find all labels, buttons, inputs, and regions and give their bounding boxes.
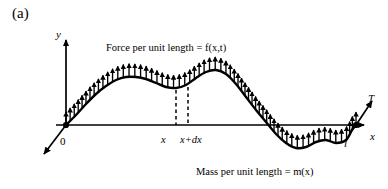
tension-vectors (44, 101, 372, 154)
panel-label: (a) (12, 6, 29, 21)
origin-label: 0 (60, 136, 66, 147)
string-deflection-curve (66, 70, 356, 148)
x-plus-dx-tick-label: x+dx (180, 135, 202, 146)
string-length-label: l (344, 138, 347, 149)
right-support-node (353, 122, 359, 128)
tension-label: T (368, 93, 374, 104)
x-tick-label: x (161, 135, 166, 146)
y-axis-label: y (56, 29, 61, 40)
right-tension-vector (356, 101, 372, 125)
element-dashed-markers (176, 87, 188, 125)
figure-vibrating-string: (a) Force per unit length = f(x,t) Mass … (0, 0, 388, 189)
left-support-node (63, 122, 69, 128)
force-per-unit-length-label: Force per unit length = f(x,t) (106, 43, 226, 54)
x-axis-label: x (370, 131, 375, 142)
mass-per-unit-length-label: Mass per unit length = m(x) (196, 167, 314, 178)
